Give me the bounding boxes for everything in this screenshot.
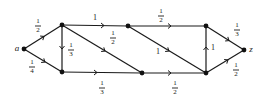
numerator: 1 (30, 59, 34, 66)
weight-label-b-c: 13 (68, 41, 74, 58)
denominator: 2 (173, 89, 177, 96)
weight-label-e-g: 12 (172, 79, 178, 96)
denominator: 3 (69, 51, 73, 58)
denominator: 3 (100, 89, 104, 96)
denominator: 2 (234, 71, 238, 78)
weight-label-c-e: 13 (99, 79, 105, 96)
denominator: 2 (159, 17, 163, 24)
numerator: 1 (234, 62, 238, 69)
numerator: 1 (111, 30, 115, 37)
weight-label-a-b: 12 (35, 17, 41, 34)
node-label-a: a (15, 43, 20, 53)
node-f (204, 24, 209, 29)
numerator: 1 (173, 80, 177, 87)
weight-label-b-e: 12 (110, 29, 116, 46)
node-b (60, 23, 65, 28)
numerator: 1 (159, 8, 163, 15)
edge-b-e (62, 25, 142, 73)
weight-label-d-g: 1 (156, 48, 160, 56)
weight-label-g-f: 1 (211, 44, 215, 52)
weight-label-f-z: 13 (234, 21, 240, 38)
node-label-z: z (249, 44, 253, 54)
node-e (140, 71, 145, 76)
denominator: 4 (30, 68, 34, 75)
node-g (204, 71, 209, 76)
node-a (22, 47, 27, 52)
denominator: 2 (111, 39, 115, 46)
weight-label-b-d: 1 (93, 14, 97, 22)
edge-a-b (24, 25, 62, 49)
numerator: 1 (36, 18, 40, 25)
numerator: 1 (100, 80, 104, 87)
edge-b-d (62, 25, 128, 26)
numerator: 1 (235, 22, 239, 29)
edge-c-e (62, 72, 142, 73)
denominator: 3 (235, 31, 239, 38)
node-z (242, 48, 247, 53)
graph-diagram (0, 0, 265, 99)
weight-label-d-f: 12 (158, 7, 164, 24)
node-c (60, 70, 65, 75)
weight-label-a-c: 14 (29, 58, 35, 75)
numerator: 1 (69, 42, 73, 49)
node-d (126, 24, 131, 29)
edge-d-g (128, 26, 206, 73)
denominator: 2 (36, 27, 40, 34)
weight-label-g-z: 12 (233, 61, 239, 78)
